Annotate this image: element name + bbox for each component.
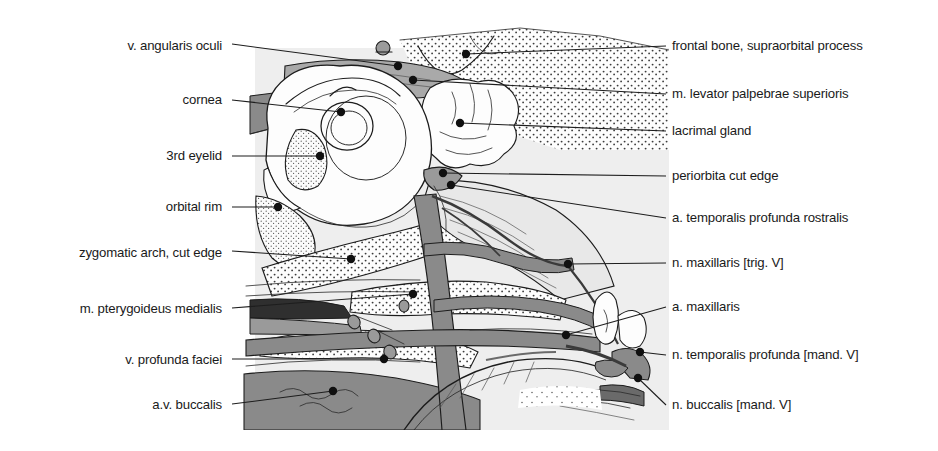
leader-dot-a-v-buccalis xyxy=(329,387,337,395)
label-n-temporalis-profunda-mand-v: n. temporalis profunda [mand. V] xyxy=(672,348,859,362)
leader-dot-a-temporalis-profunda-rostralis xyxy=(447,181,455,189)
leader-dot-n-temporalis-profunda-mand-v xyxy=(636,348,644,356)
leader-dot-n-buccalis-mand-v xyxy=(634,374,642,382)
label-lacrimal-gland: lacrimal gland xyxy=(672,124,751,138)
leader-dot-third-eyelid xyxy=(316,152,324,160)
label-v-profunda-faciei: v. profunda faciei xyxy=(125,353,222,367)
leader-dot-cornea xyxy=(337,108,345,116)
label-orbital-rim: orbital rim xyxy=(166,200,222,214)
leader-dot-m-levator-palpebrae-superioris xyxy=(409,76,417,84)
leader-dot-v-angularis-oculi xyxy=(394,62,402,70)
leader-dot-zygomatic-arch-cut-edge xyxy=(347,255,355,263)
leader-dot-periorbita-cut-edge xyxy=(439,169,447,177)
label-n-maxillaris-trig-v: n. maxillaris [trig. V] xyxy=(672,256,784,270)
leader-dot-a-maxillaris xyxy=(562,331,570,339)
label-cornea: cornea xyxy=(183,93,222,107)
label-periorbita-cut-edge: periorbita cut edge xyxy=(672,169,778,183)
leader-dot-frontal-bone-supraorbital-process xyxy=(462,50,470,58)
label-n-buccalis-mand-v: n. buccalis [mand. V] xyxy=(672,398,791,412)
label-m-pterygoideus-medialis: m. pterygoideus medialis xyxy=(80,302,222,316)
anatomy-illustration xyxy=(0,0,938,451)
leader-dot-orbital-rim xyxy=(274,203,282,211)
leader-dot-v-profunda-faciei xyxy=(380,355,388,363)
label-a-maxillaris: a. maxillaris xyxy=(672,300,740,314)
label-v-angularis-oculi: v. angularis oculi xyxy=(127,39,222,53)
label-third-eyelid: 3rd eyelid xyxy=(166,149,222,163)
label-a-v-buccalis: a.v. buccalis xyxy=(152,398,222,412)
leader-dot-lacrimal-gland xyxy=(456,119,464,127)
leader-dot-n-maxillaris-trig-v xyxy=(564,260,572,268)
label-m-levator-palpebrae-superioris: m. levator palpebrae superioris xyxy=(672,87,848,101)
anatomical-figure: v. angularis oculicornea3rd eyelidorbita… xyxy=(0,0,938,451)
leader-dot-m-pterygoideus-medialis xyxy=(409,290,417,298)
label-a-temporalis-profunda-rostralis: a. temporalis profunda rostralis xyxy=(672,211,848,225)
label-zygomatic-arch-cut-edge: zygomatic arch, cut edge xyxy=(79,246,222,260)
label-frontal-bone-supraorbital-process: frontal bone, supraorbital process xyxy=(672,39,863,53)
